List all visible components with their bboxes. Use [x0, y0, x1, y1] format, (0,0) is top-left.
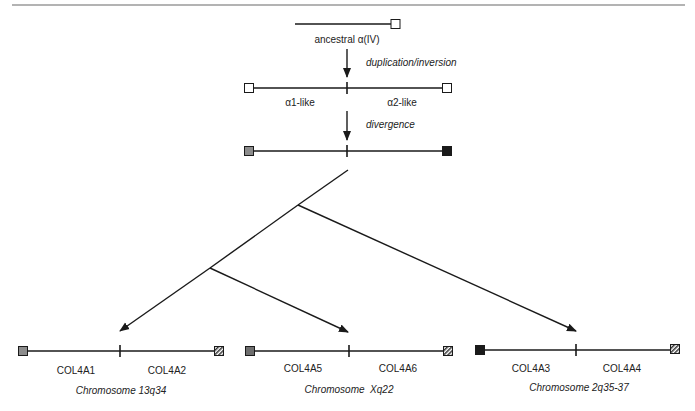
gray-box-icon: [19, 347, 28, 356]
hatched-box-icon: [671, 345, 680, 354]
collagen-evolution-diagram: ancestral α(IV) duplication/inversion α1…: [0, 0, 695, 411]
chromosome-label: Chromosome 2q35-37: [529, 382, 629, 393]
black-box-icon: [443, 147, 452, 156]
chromosome-2q35-37: COL4A3 COL4A4 Chromosome 2q35-37: [476, 344, 680, 393]
white-box-icon: [245, 84, 254, 93]
diverged-gene: [245, 145, 452, 157]
duplicated-gene: α1-like α2-like: [245, 82, 452, 108]
white-box-icon: [443, 84, 452, 93]
step-label-divergence: divergence: [366, 119, 415, 130]
alpha1-like-label: α1-like: [285, 97, 315, 108]
branching-tree: [120, 170, 576, 332]
step-label-duplication: duplication/inversion: [366, 57, 457, 68]
gene-label: COL4A1: [57, 365, 96, 376]
gray-box-icon: [245, 147, 254, 156]
gene-label: COL4A5: [284, 363, 323, 374]
white-box-icon: [391, 20, 400, 29]
black-box-icon: [476, 346, 485, 355]
hatched-box-icon: [215, 347, 224, 356]
gene-label: COL4A3: [512, 363, 551, 374]
hatched-box-icon: [444, 347, 453, 356]
chromosome-xq22: COL4A5 COL4A6 Chromosome Xq22: [246, 345, 453, 395]
ancestral-gene: ancestral α(IV): [295, 20, 400, 46]
gene-label: COL4A6: [379, 363, 418, 374]
ancestral-label: ancestral α(IV): [314, 34, 379, 45]
gene-label: COL4A4: [603, 363, 642, 374]
chromosome-13q34: COL4A1 COL4A2 Chromosome 13q34: [19, 345, 224, 396]
chromosome-label: Chromosome 13q34: [76, 385, 167, 396]
alpha2-like-label: α2-like: [387, 97, 417, 108]
gray-box-icon: [246, 347, 255, 356]
gene-label: COL4A2: [148, 365, 187, 376]
chromosome-label: Chromosome Xq22: [305, 384, 394, 395]
